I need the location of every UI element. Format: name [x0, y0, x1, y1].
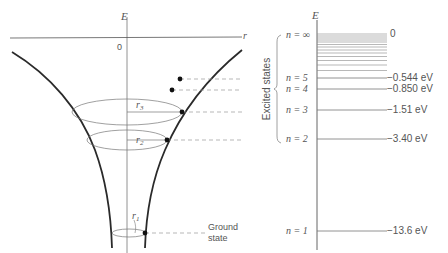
- orbit-ellipse-r1: [112, 229, 146, 237]
- radius-axis-label: r: [243, 30, 247, 41]
- radius-label-r3: r3: [136, 99, 144, 112]
- radius-label-r2: r2: [136, 134, 144, 147]
- energy-value-n5: −0.544 eV: [387, 72, 433, 83]
- dashed-level-lines: [145, 79, 242, 233]
- dot-n2: [165, 138, 170, 143]
- potential-curve-right: [145, 50, 242, 248]
- potential-curve-left: [12, 52, 112, 248]
- origin-label: 0: [117, 42, 122, 52]
- energy-level-lines: [317, 78, 387, 231]
- energy-level-diagram: E n = ∞ n = 5 n =: [261, 9, 433, 250]
- radius-label-r1: r1: [132, 210, 139, 223]
- n-label-3: n = 3: [286, 104, 308, 115]
- ground-state-label-line1: Ground: [208, 222, 238, 232]
- n-labels: n = ∞ n = 5 n = 4 n = 3 n = 2 n = 1: [286, 29, 310, 236]
- dot-n5: [178, 77, 183, 82]
- n-label-5: n = 5: [286, 72, 308, 83]
- dot-n1: [143, 231, 148, 236]
- energy-value-n4: −0.850 eV: [387, 83, 433, 94]
- energy-value-inf: 0: [390, 28, 396, 39]
- dot-n3: [180, 110, 185, 115]
- continuum-lines: [317, 34, 387, 71]
- hydrogen-energy-diagram: E r 0 r3 r2 r1 Groun: [0, 0, 448, 253]
- excited-states-label: Excited states: [261, 58, 272, 120]
- potential-well-diagram: E r 0 r3 r2 r1 Groun: [10, 10, 247, 253]
- dot-n4: [170, 88, 175, 93]
- energy-axis-label-right: E: [311, 9, 319, 21]
- n-label-4: n = 4: [286, 83, 308, 94]
- energy-axis-label-left: E: [120, 10, 128, 22]
- ground-state-label-line2: state: [208, 233, 228, 243]
- energy-value-n1: −13.6 eV: [387, 225, 428, 236]
- n-label-2: n = 2: [286, 133, 308, 144]
- n-label-inf: n = ∞: [286, 29, 310, 40]
- energy-value-n2: −3.40 eV: [387, 133, 428, 144]
- n-label-1: n = 1: [286, 225, 308, 236]
- radius-axis: [10, 37, 242, 38]
- energy-value-n3: −1.51 eV: [387, 104, 428, 115]
- energy-values: 0 −0.544 eV −0.850 eV −1.51 eV −3.40 eV …: [387, 28, 433, 236]
- excited-states-brace: [274, 35, 281, 143]
